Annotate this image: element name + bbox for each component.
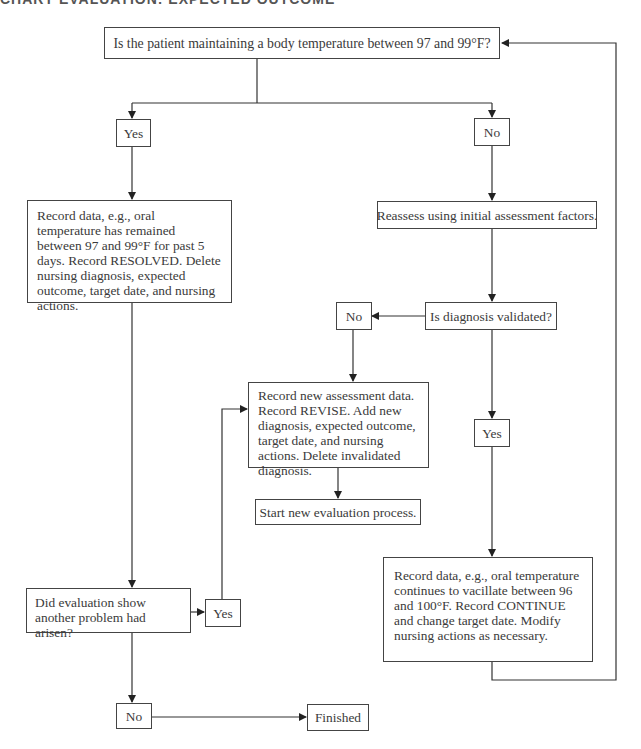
another-problem-question-box: Did evaluation show another problem had … <box>26 588 191 633</box>
diagnosis-question-box: Is diagnosis validated? <box>425 302 557 330</box>
diagnosis-no-box: No <box>336 302 372 330</box>
resolved-action-box: Record data, e.g., oral temperature has … <box>27 200 232 303</box>
start-new-evaluation-box: Start new evaluation process. <box>255 499 421 525</box>
diagnosis-yes-box: Yes <box>474 419 510 447</box>
no-box: No <box>474 118 510 146</box>
finished-box: Finished <box>307 704 369 731</box>
another-yes-box: Yes <box>205 599 241 627</box>
reassess-box: Reassess using initial assessment factor… <box>377 201 597 229</box>
start-question-box: Is the patient maintaining a body temper… <box>104 27 500 59</box>
yes-box: Yes <box>116 119 151 147</box>
continue-action-box: Record data, e.g., oral temperature cont… <box>383 557 593 662</box>
revise-action-box: Record new assessment data. Record REVIS… <box>248 382 429 468</box>
another-no-box: No <box>116 703 152 729</box>
